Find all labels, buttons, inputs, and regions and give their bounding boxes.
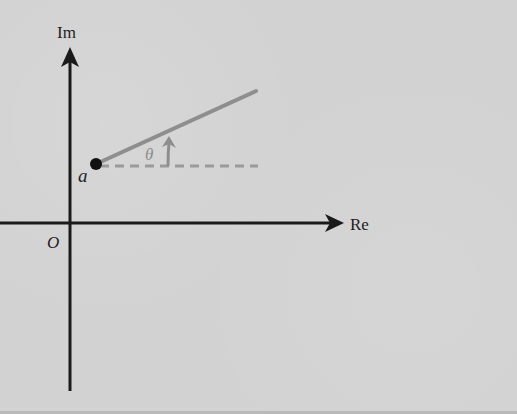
angle-theta-label: θ [145, 146, 153, 163]
origin-label: O [47, 234, 59, 251]
real-axis-label: Re [350, 216, 369, 233]
point-a [90, 158, 102, 170]
complex-plane-diagram [0, 0, 517, 414]
ray-from-a [96, 91, 256, 164]
point-a-label: a [78, 166, 88, 185]
imaginary-axis-label: Im [57, 24, 76, 41]
angle-arc-arrow [168, 142, 169, 166]
